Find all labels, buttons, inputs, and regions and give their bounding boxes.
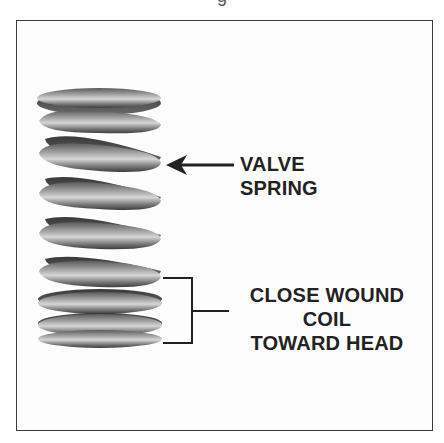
close-wound-coil-label: CLOSE WOUND COIL TOWARD HEAD	[229, 283, 425, 355]
label-line: COIL	[229, 307, 425, 331]
label-line: TOWARD HEAD	[229, 331, 425, 355]
figure-frame: VALVE SPRING CLOSE WOUND COIL TOWARD HEA…	[16, 20, 433, 431]
clipped-caption-text: g	[0, 0, 444, 6]
bracket-icon	[163, 278, 229, 343]
label-line: SPRING	[240, 176, 318, 200]
left-arrow-icon	[166, 155, 234, 175]
annotation-layer	[17, 21, 432, 430]
valve-spring-label: VALVE SPRING	[240, 152, 318, 200]
label-line: CLOSE WOUND	[229, 283, 425, 307]
label-line: VALVE	[240, 152, 318, 176]
